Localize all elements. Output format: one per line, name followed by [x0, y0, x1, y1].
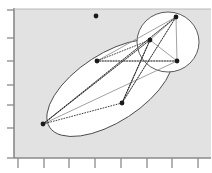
data-point-p0: [94, 14, 99, 19]
data-point-p6: [41, 122, 46, 127]
data-point-p3: [175, 59, 180, 64]
data-point-p5: [120, 101, 125, 106]
data-point-p1: [174, 15, 179, 20]
plot-canvas: [0, 0, 212, 173]
scatter-plot-figure: [0, 0, 212, 173]
data-point-p4: [95, 59, 100, 64]
data-point-p2: [148, 38, 153, 43]
